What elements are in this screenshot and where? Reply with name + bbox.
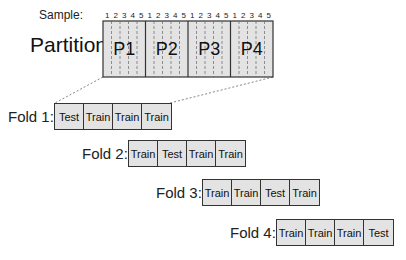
fold-1-label: Fold 1:	[8, 108, 54, 125]
train-cell: Train	[277, 220, 306, 245]
test-cell: Test	[364, 220, 393, 245]
sample-number: 4	[258, 11, 263, 20]
sample-number: 2	[199, 11, 204, 20]
sample-number: 4	[131, 11, 136, 20]
sample-number: 5	[224, 11, 229, 20]
train-cell: Train	[129, 141, 158, 166]
train-cell: Train	[187, 141, 216, 166]
test-cell: Test	[55, 104, 84, 129]
train-cell: Train	[335, 220, 364, 245]
sample-number: 5	[182, 11, 187, 20]
sample-number: 3	[250, 11, 255, 20]
partition-p4-label: P4	[241, 39, 263, 59]
test-cell: Test	[261, 180, 290, 205]
fold-3-row: TrainTrainTestTrain	[202, 179, 320, 206]
sample-number: 3	[207, 11, 212, 20]
connector-left	[55, 77, 103, 103]
sample-number: 1	[190, 11, 195, 20]
train-cell: Train	[84, 104, 113, 129]
sample-number: 1	[233, 11, 238, 20]
train-cell: Train	[232, 180, 261, 205]
sample-number: 1	[148, 11, 153, 20]
sample-number: 3	[122, 11, 127, 20]
sample-number: 5	[267, 11, 272, 20]
train-cell: Train	[142, 104, 171, 129]
partition-p2-label: P2	[156, 39, 178, 59]
sample-number: 4	[173, 11, 178, 20]
fold-2-row: TrainTestTrainTrain	[128, 140, 246, 167]
train-cell: Train	[203, 180, 232, 205]
sample-number: 3	[165, 11, 170, 20]
train-cell: Train	[306, 220, 335, 245]
fold-2-label: Fold 2:	[82, 145, 128, 162]
partition-p3-label: P3	[198, 39, 220, 59]
partition-p1-label: P1	[113, 39, 135, 59]
sample-number: 5	[139, 11, 144, 20]
fold-1-row: TestTrainTrainTrain	[54, 103, 172, 130]
train-cell: Train	[216, 141, 245, 166]
fold-4-label: Fold 4:	[230, 224, 276, 241]
sample-number: 2	[156, 11, 161, 20]
sample-number: 1	[105, 11, 110, 20]
sample-number: 2	[241, 11, 246, 20]
train-cell: Train	[113, 104, 142, 129]
fold-3-label: Fold 3:	[156, 184, 202, 201]
connector-right	[170, 77, 273, 103]
fold-4-row: TrainTrainTrainTest	[276, 219, 394, 246]
sample-number: 2	[114, 11, 119, 20]
test-cell: Test	[158, 141, 187, 166]
train-cell: Train	[290, 180, 319, 205]
sample-number: 4	[216, 11, 221, 20]
